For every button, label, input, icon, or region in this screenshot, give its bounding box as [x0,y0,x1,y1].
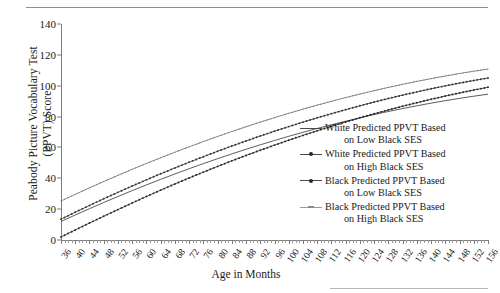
series-marker [124,205,126,207]
legend-label-white-high-ses-line1: White Predicted PPVT Based [325,148,446,160]
series-marker [217,136,218,137]
series-marker [406,83,407,84]
series-marker [459,92,461,94]
x-tick-label: 40 [74,247,88,261]
series-marker [107,179,108,180]
legend-item-white-low-ses[interactable]: White Predicted PPVT Based on Low Black … [300,122,492,146]
series-marker [281,115,282,116]
series-marker [234,144,236,146]
series-marker [384,110,386,112]
series-marker [64,199,65,200]
series-marker [60,200,61,201]
series-marker [359,117,361,119]
series-marker [117,175,118,176]
series-marker [135,200,137,202]
x-tick-minor [193,240,194,243]
series-marker [163,171,165,173]
series-marker [413,82,414,83]
series-marker [266,133,268,135]
x-tick-label: 92 [259,247,273,261]
series-marker [444,95,446,97]
series-marker [263,148,265,150]
series-marker [238,129,239,130]
x-tick-minor [168,240,169,243]
y-tick-mark [57,178,61,179]
x-tick-minor [342,240,343,243]
legend-item-black-low-ses[interactable]: Black Predicted PPVT Based on Low Black … [300,175,492,199]
series-marker [249,153,251,155]
series-marker [373,101,375,103]
x-tick-mark [360,240,361,244]
series-marker [181,164,183,166]
legend-swatch-black-low-ses [300,176,322,185]
series-marker [412,103,414,105]
x-tick-mark [246,240,247,244]
x-tick-minor [225,240,226,243]
legend-swatch-black-high-ses [300,203,322,212]
x-tick-minor [484,240,485,243]
y-tick-label: 60 [26,141,56,153]
series-marker [213,152,215,154]
series-marker [381,88,382,89]
series-marker [363,93,364,94]
x-tick-label: 44 [88,247,102,261]
legend-label-black-low-ses-line1: Black Predicted PPVT Based [325,175,445,187]
x-tick-mark [61,240,62,244]
series-marker [373,113,375,115]
series-marker [398,95,400,97]
series-marker [78,227,80,229]
series-marker [163,188,165,190]
x-tick-label: 88 [245,247,259,261]
series-marker [402,105,404,107]
series-marker [259,149,261,151]
series-marker [110,212,112,214]
series-marker [295,137,297,139]
series-marker [405,93,407,95]
series-marker [427,79,428,80]
series-marker [313,118,315,120]
series-marker [473,71,474,72]
series-marker [234,159,236,161]
x-tick-minor [157,240,158,243]
series-marker [284,140,286,142]
series-marker [256,136,258,138]
x-tick-minor [296,240,297,243]
x-tick-minor [250,240,251,243]
series-marker [359,105,361,107]
series-marker [452,74,453,75]
x-tick-mark [232,240,233,244]
x-tick-label: 68 [173,247,187,261]
x-tick-label: 48 [102,247,116,261]
series-marker [278,116,279,117]
x-tick-minor [307,240,308,243]
x-tick-minor [93,240,94,243]
x-tick-minor [321,240,322,243]
legend-label-white-high-ses-line2: on High Black SES [300,161,492,173]
series-marker [281,128,283,130]
series-marker [412,92,414,94]
y-tick-label: 80 [26,111,56,123]
series-marker [434,98,436,100]
series-marker [448,84,450,86]
series-marker [178,150,179,151]
x-tick-mark [474,240,475,244]
series-marker [125,172,126,173]
legend-item-black-high-ses[interactable]: Black Predicted PPVT Based on High Black… [300,201,492,225]
series-marker [213,137,214,138]
series-marker [252,152,254,154]
series-marker [370,102,372,104]
series-marker [238,143,240,145]
series-marker [68,197,69,198]
series-marker [224,148,226,150]
x-tick-label: 120 [356,247,372,264]
series-marker [114,176,115,177]
legend-item-white-high-ses[interactable]: White Predicted PPVT Based on High Black… [300,148,492,172]
series-marker [71,231,73,233]
x-tick-minor [310,240,311,243]
series-marker [117,191,119,193]
series-marker [245,126,246,127]
x-tick-label: 76 [202,247,216,261]
x-tick-minor [456,240,457,243]
series-marker [210,153,212,155]
